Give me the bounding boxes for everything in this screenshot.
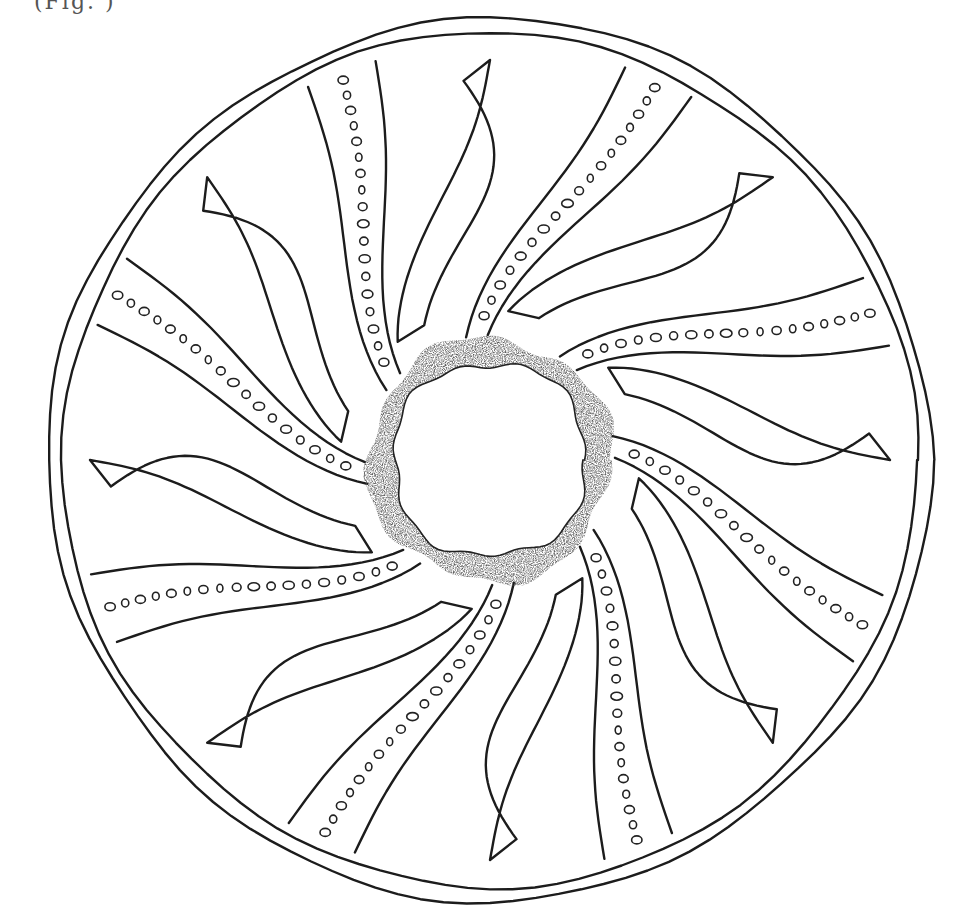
- bead: [650, 84, 660, 92]
- bead: [835, 317, 845, 325]
- bead: [105, 603, 115, 611]
- ring-lumen: [393, 364, 586, 557]
- bead: [624, 806, 634, 814]
- bead: [387, 562, 397, 570]
- bead: [475, 631, 485, 639]
- bead: [831, 605, 841, 613]
- bead: [397, 725, 406, 733]
- bead: [356, 153, 362, 161]
- bead: [616, 340, 626, 348]
- bead: [769, 556, 775, 564]
- bead: [217, 584, 223, 592]
- bead: [199, 586, 208, 594]
- bead: [366, 763, 372, 771]
- bead: [248, 583, 260, 591]
- bead: [611, 692, 623, 700]
- bead: [375, 342, 382, 350]
- bead: [660, 466, 670, 474]
- bead: [739, 329, 748, 337]
- bead: [575, 187, 584, 195]
- bead: [612, 675, 620, 683]
- bead: [232, 583, 241, 591]
- bead: [720, 329, 732, 337]
- bead: [152, 592, 159, 600]
- bead: [362, 272, 370, 280]
- bead: [623, 790, 630, 798]
- bead: [821, 320, 828, 328]
- bead: [587, 174, 593, 182]
- bead: [135, 595, 145, 603]
- bead: [327, 455, 334, 463]
- bead: [216, 367, 225, 375]
- bead: [857, 621, 867, 629]
- bead: [804, 323, 814, 331]
- bead: [184, 587, 190, 595]
- bead: [454, 660, 465, 668]
- bead: [387, 738, 393, 746]
- bead: [755, 545, 764, 553]
- bead: [730, 522, 738, 530]
- bead: [643, 97, 650, 105]
- bead: [591, 554, 601, 562]
- bead: [366, 308, 374, 316]
- bead: [805, 587, 815, 595]
- bead: [346, 106, 356, 114]
- bead: [610, 657, 621, 665]
- bead: [619, 775, 629, 783]
- septum-line: [488, 97, 691, 335]
- bead: [583, 350, 593, 358]
- bead: [341, 462, 351, 470]
- bead: [629, 450, 639, 458]
- bead: [154, 316, 161, 324]
- septum-line: [289, 585, 492, 823]
- septum-line: [577, 346, 889, 371]
- bead: [242, 390, 250, 398]
- bead: [359, 255, 370, 263]
- bead: [705, 330, 713, 338]
- bead: [297, 436, 305, 444]
- lobe-outline: [608, 368, 890, 465]
- bead: [819, 596, 826, 604]
- bead: [139, 307, 149, 315]
- bead: [618, 759, 624, 767]
- bead: [676, 476, 684, 484]
- septum-line: [91, 550, 403, 575]
- bead: [551, 212, 559, 220]
- bead: [360, 237, 368, 245]
- septum-line: [376, 61, 401, 373]
- bead: [283, 581, 294, 589]
- bead: [167, 589, 177, 597]
- bead: [741, 534, 753, 542]
- bead: [715, 510, 726, 518]
- bead: [613, 709, 622, 717]
- bead: [686, 331, 697, 339]
- bead: [598, 570, 605, 578]
- cross-section-illustration: [0, 0, 963, 912]
- bead: [601, 587, 611, 595]
- septum-line: [127, 259, 365, 462]
- bead: [420, 700, 428, 708]
- bead: [330, 815, 337, 823]
- bead: [670, 332, 678, 340]
- bead: [338, 576, 346, 584]
- bead: [689, 487, 700, 495]
- bead: [347, 789, 354, 797]
- bead: [562, 199, 574, 207]
- bead: [205, 356, 211, 364]
- bead: [538, 225, 549, 233]
- bead: [491, 600, 501, 608]
- bead: [616, 136, 626, 144]
- bead: [479, 312, 489, 320]
- bead: [488, 296, 495, 304]
- bead: [615, 743, 624, 751]
- bead: [336, 802, 346, 810]
- bead: [757, 328, 763, 336]
- bead: [112, 291, 122, 299]
- bead: [528, 238, 536, 246]
- bead: [166, 325, 176, 333]
- bead: [704, 498, 712, 506]
- bead: [338, 76, 348, 84]
- bead: [515, 252, 526, 260]
- bead: [281, 425, 292, 433]
- bead: [302, 580, 310, 588]
